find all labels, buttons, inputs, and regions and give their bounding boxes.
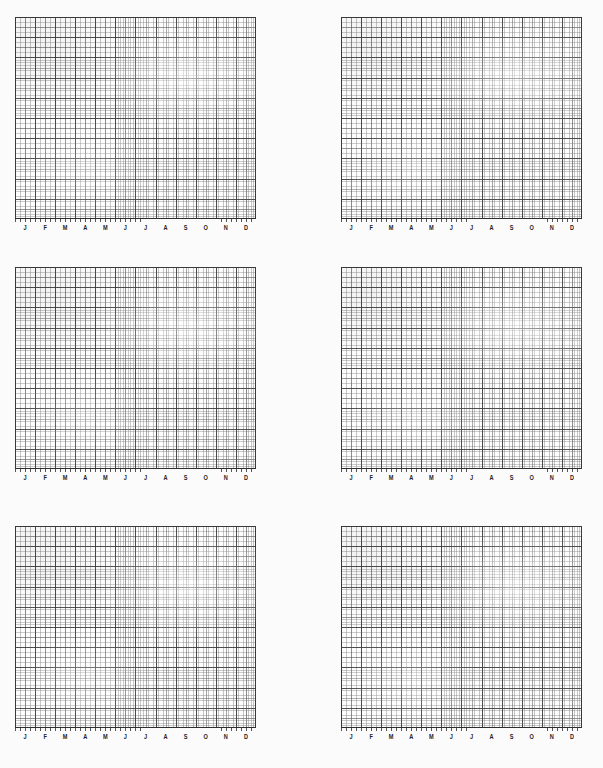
month-label-jan: J — [341, 472, 361, 482]
month-label-aug: A — [156, 472, 176, 482]
month-label-jan: J — [15, 472, 35, 482]
grid-lines-6 — [341, 526, 582, 728]
plot-area-2: J F M A M J J A S O N D — [341, 17, 582, 219]
month-label-feb: F — [361, 472, 381, 482]
month-label-jul: J — [461, 222, 481, 232]
month-label-aug: A — [482, 472, 502, 482]
month-label-dec: D — [236, 222, 256, 232]
chart-panel-3: J F M A M J J A S O N D — [0, 256, 301, 512]
month-label-apr: A — [75, 472, 95, 482]
month-label-sep: S — [176, 222, 196, 232]
month-label-sep: S — [502, 222, 522, 232]
month-label-jun: J — [441, 731, 461, 741]
month-label-aug: A — [482, 222, 502, 232]
month-label-jul: J — [461, 472, 481, 482]
x-axis-ticks-5: J F M A M J J A S O N D — [15, 728, 256, 744]
month-label-oct: O — [196, 472, 216, 482]
month-label-jan: J — [15, 731, 35, 741]
month-label-feb: F — [35, 731, 55, 741]
chart-panel-6: J F M A M J J A S O N D — [301, 512, 602, 768]
month-label-jul: J — [135, 222, 155, 232]
month-label-mar: M — [381, 472, 401, 482]
plot-area-4: J F M A M J J A S O N D — [341, 267, 582, 469]
chart-panel-2: J F M A M J J A S O N D — [301, 0, 602, 256]
month-label-nov: N — [216, 472, 236, 482]
month-label-mar: M — [55, 222, 75, 232]
month-label-feb: F — [361, 731, 381, 741]
month-label-row-2: J F M A M J J A S O N D — [341, 223, 582, 231]
month-label-nov: N — [542, 472, 562, 482]
month-label-dec: D — [562, 222, 582, 232]
month-label-oct: O — [522, 472, 542, 482]
month-label-row-3: J F M A M J J A S O N D — [15, 473, 256, 481]
month-label-dec: D — [562, 731, 582, 741]
month-label-may: M — [95, 222, 115, 232]
month-label-sep: S — [176, 472, 196, 482]
month-label-feb: F — [35, 472, 55, 482]
month-label-oct: O — [196, 731, 216, 741]
chart-panel-4: J F M A M J J A S O N D — [301, 256, 602, 512]
month-label-dec: D — [236, 472, 256, 482]
month-label-nov: N — [542, 731, 562, 741]
grid-lines-1 — [15, 17, 256, 219]
month-label-mar: M — [55, 731, 75, 741]
month-label-jun: J — [115, 731, 135, 741]
month-label-row-5: J F M A M J J A S O N D — [15, 732, 256, 740]
month-label-aug: A — [156, 731, 176, 741]
x-axis-ticks-6: J F M A M J J A S O N D — [341, 728, 582, 744]
month-label-row-4: J F M A M J J A S O N D — [341, 473, 582, 481]
x-axis-ticks-3: J F M A M J J A S O N D — [15, 469, 256, 485]
month-label-row-6: J F M A M J J A S O N D — [341, 732, 582, 740]
grid-lines-2 — [341, 17, 582, 219]
month-label-nov: N — [542, 222, 562, 232]
month-label-jun: J — [441, 472, 461, 482]
month-label-jul: J — [461, 731, 481, 741]
plot-area-5: J F M A M J J A S O N D — [15, 526, 256, 728]
grid-lines-4 — [341, 267, 582, 469]
month-label-dec: D — [236, 731, 256, 741]
month-label-sep: S — [176, 731, 196, 741]
month-label-sep: S — [502, 731, 522, 741]
month-label-mar: M — [381, 731, 401, 741]
month-label-aug: A — [482, 731, 502, 741]
month-label-oct: O — [522, 222, 542, 232]
month-label-feb: F — [35, 222, 55, 232]
chart-panel-5: J F M A M J J A S O N D — [0, 512, 301, 768]
graph-paper-sheet: J F M A M J J A S O N D — [0, 0, 603, 768]
month-label-jun: J — [441, 222, 461, 232]
month-label-sep: S — [502, 472, 522, 482]
plot-area-1: J F M A M J J A S O N D — [15, 17, 256, 219]
month-label-may: M — [421, 731, 441, 741]
month-label-apr: A — [401, 731, 421, 741]
month-label-jun: J — [115, 472, 135, 482]
month-label-nov: N — [216, 222, 236, 232]
month-label-nov: N — [216, 731, 236, 741]
month-label-aug: A — [156, 222, 176, 232]
month-label-jun: J — [115, 222, 135, 232]
grid-lines-5 — [15, 526, 256, 728]
x-axis-ticks-4: J F M A M J J A S O N D — [341, 469, 582, 485]
chart-panel-1: J F M A M J J A S O N D — [0, 0, 301, 256]
month-label-apr: A — [401, 472, 421, 482]
month-label-jan: J — [15, 222, 35, 232]
month-label-oct: O — [196, 222, 216, 232]
x-axis-ticks-1: J F M A M J J A S O N D — [15, 219, 256, 235]
plot-area-6: J F M A M J J A S O N D — [341, 526, 582, 728]
month-label-jan: J — [341, 731, 361, 741]
month-label-oct: O — [522, 731, 542, 741]
month-label-apr: A — [401, 222, 421, 232]
month-label-may: M — [421, 222, 441, 232]
grid-lines-3 — [15, 267, 256, 469]
month-label-row-1: J F M A M J J A S O N D — [15, 223, 256, 231]
month-label-mar: M — [55, 472, 75, 482]
month-label-apr: A — [75, 731, 95, 741]
month-label-may: M — [421, 472, 441, 482]
month-label-dec: D — [562, 472, 582, 482]
month-label-mar: M — [381, 222, 401, 232]
x-axis-ticks-2: J F M A M J J A S O N D — [341, 219, 582, 235]
month-label-apr: A — [75, 222, 95, 232]
month-label-may: M — [95, 731, 115, 741]
month-label-may: M — [95, 472, 115, 482]
month-label-jan: J — [341, 222, 361, 232]
month-label-jul: J — [135, 472, 155, 482]
